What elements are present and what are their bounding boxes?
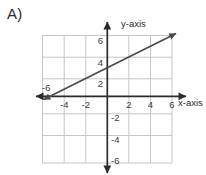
x-tick-label-neg4: -4: [60, 99, 68, 110]
x-tick-label-2: 2: [126, 99, 131, 110]
graph-figure: A): [0, 0, 206, 175]
y-tick-label-neg4: -4: [111, 134, 119, 145]
y-axis-label: y-axis: [121, 18, 146, 29]
y-tick-label-neg2: -2: [111, 112, 119, 123]
x-tick-label-6: 6: [169, 99, 174, 110]
x-tick-label-4: 4: [148, 99, 153, 110]
y-tick-label-6: 6: [98, 35, 103, 46]
y-tick-label-4: 4: [98, 57, 103, 68]
coordinate-plane: y-axis x-axis 6 4 2 -2 -4 -6 -6 -4 -2 2 …: [0, 0, 206, 175]
y-tick-label-neg6: -6: [111, 155, 119, 166]
x-tick-label-neg2: -2: [82, 99, 90, 110]
y-tick-label-2: 2: [98, 78, 103, 89]
x-axis-label: x-axis: [178, 97, 203, 108]
x-tick-label-neg6: -6: [42, 82, 50, 93]
